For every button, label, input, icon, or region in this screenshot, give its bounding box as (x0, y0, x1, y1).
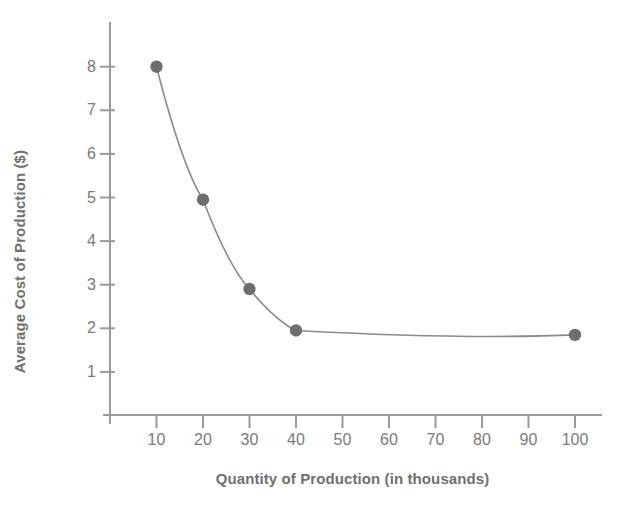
data-point-marker (243, 283, 255, 295)
x-tick-label: 20 (194, 431, 212, 449)
data-series-markers (150, 60, 581, 341)
x-tick-label: 50 (334, 431, 352, 449)
x-tick-label: 100 (562, 431, 589, 449)
data-point-marker (150, 60, 162, 72)
x-tick-label: 90 (520, 431, 538, 449)
plot-area (0, 0, 635, 523)
y-tick-marks (100, 67, 115, 372)
x-tick-label: 10 (148, 431, 166, 449)
y-axis-title: Average Cost of Production ($) (0, 0, 95, 523)
x-tick-label: 70 (427, 431, 445, 449)
x-axis-title: Quantity of Production (in thousands) (0, 470, 635, 487)
x-tick-label: 80 (473, 431, 491, 449)
x-tick-label: 30 (241, 431, 259, 449)
line-chart-figure: 12345678 102030405060708090100 Quantity … (0, 0, 635, 523)
x-tick-marks (157, 415, 576, 428)
data-point-marker (197, 193, 209, 205)
chart-page: 12345678 102030405060708090100 Quantity … (0, 0, 635, 523)
x-tick-label: 60 (380, 431, 398, 449)
data-point-marker (290, 324, 302, 336)
data-series-line (157, 67, 576, 337)
x-tick-label: 40 (287, 431, 305, 449)
data-point-marker (569, 329, 581, 341)
